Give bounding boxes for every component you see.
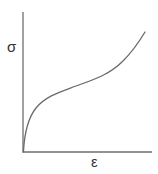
x-axis-label-epsilon: ε (91, 154, 98, 169)
stress-strain-curve (24, 32, 146, 151)
y-axis-label-sigma: σ (7, 39, 16, 54)
stress-strain-diagram (0, 0, 158, 174)
